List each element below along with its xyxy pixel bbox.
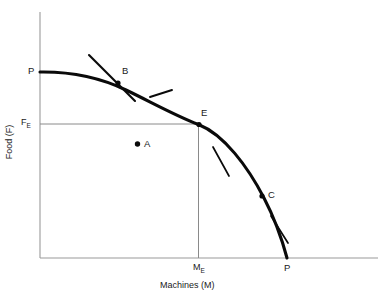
y-axis-label-text: Food (F) (4, 125, 14, 160)
x-axis-title: Machines (M) (160, 281, 215, 290)
x-axis-tick-label-me: ME (193, 263, 205, 274)
y-axis-tick-label-fe: FE (21, 118, 31, 129)
frontier-machines-intercept-label: P (284, 263, 290, 273)
tangent-stub-at-c (271, 216, 288, 243)
x-axis-tick-base: M (193, 262, 201, 272)
point-label-a: A (144, 139, 150, 149)
point-marker-b (115, 80, 120, 85)
point-marker-e (196, 122, 201, 127)
y-axis-tick-subscript: E (27, 122, 31, 129)
frontier-food-intercept-label: P (28, 66, 34, 76)
x-axis-tick-subscript: E (201, 267, 205, 274)
ppf-figure: Food (F) FE P ME P Machines (M) A B E C (0, 0, 385, 298)
production-possibility-frontier-curve (40, 72, 287, 258)
point-marker-c (259, 193, 264, 198)
ppf-plot-svg (0, 0, 385, 298)
y-axis-label: Food (F) (2, 104, 16, 180)
point-marker-a (135, 141, 140, 146)
point-label-e: E (201, 108, 207, 118)
tangent-stub-lower-e (213, 147, 229, 176)
point-label-b: B (122, 66, 128, 76)
tangent-stub-upper-e (150, 90, 172, 97)
point-label-c: C (268, 190, 275, 200)
